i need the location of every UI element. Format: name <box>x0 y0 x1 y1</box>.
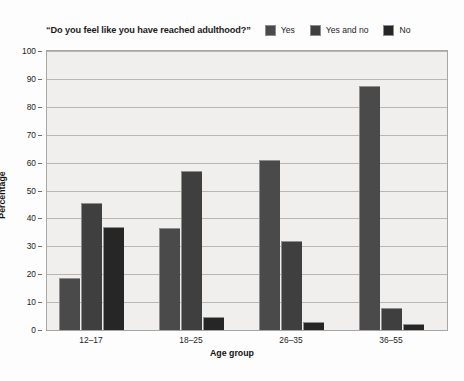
bar-group <box>47 51 147 330</box>
y-tick-mark <box>38 246 42 247</box>
bar-no[interactable] <box>203 317 224 330</box>
bar-group <box>147 51 247 330</box>
y-tick-label: 60 <box>27 158 36 168</box>
chart-legend: YesYes and noNo <box>265 25 426 36</box>
bar-yes[interactable] <box>359 86 380 330</box>
legend-swatch-icon <box>383 25 394 36</box>
legend-item-yes-and-no[interactable]: Yes and no <box>310 25 369 36</box>
bar-no[interactable] <box>103 227 124 330</box>
legend-swatch-icon <box>310 25 321 36</box>
y-tick-label: 0 <box>31 325 36 335</box>
x-tick-label: 26–35 <box>279 335 302 345</box>
y-tick-label: 100 <box>22 46 36 56</box>
legend-label: No <box>399 25 410 35</box>
y-tick-label: 50 <box>27 186 36 196</box>
y-tick-mark <box>38 191 42 192</box>
bar-group <box>247 51 347 330</box>
bar-group <box>347 51 447 330</box>
bar-yes[interactable] <box>59 278 80 330</box>
y-tick-mark <box>38 274 42 275</box>
legend-item-no[interactable]: No <box>383 25 410 36</box>
bar-no[interactable] <box>403 324 424 330</box>
y-axis-title: Percentage <box>0 171 7 218</box>
y-tick-mark <box>38 107 42 108</box>
bar-chart: “Do you feel like you have reached adult… <box>0 0 464 381</box>
y-tick-mark <box>38 51 42 52</box>
bar-yes-and-no[interactable] <box>281 241 302 330</box>
y-tick-mark <box>38 79 42 80</box>
y-tick-label: 10 <box>27 297 36 307</box>
y-tick-label: 30 <box>27 241 36 251</box>
legend-label: Yes and no <box>326 25 369 35</box>
bar-yes-and-no[interactable] <box>381 308 402 330</box>
y-tick-label: 90 <box>27 74 36 84</box>
legend-label: Yes <box>281 25 295 35</box>
y-tick-mark <box>38 135 42 136</box>
y-tick-label: 70 <box>27 130 36 140</box>
x-tick-label: 18–25 <box>179 335 202 345</box>
x-tick-label: 12–17 <box>79 335 102 345</box>
chart-title: “Do you feel like you have reached adult… <box>46 25 251 35</box>
bars-layer <box>47 51 447 330</box>
y-tick-label: 20 <box>27 269 36 279</box>
y-tick-label: 80 <box>27 102 36 112</box>
x-axis: 12–1718–2526–3536–55 <box>47 333 447 349</box>
legend-swatch-icon <box>265 25 276 36</box>
bar-yes-and-no[interactable] <box>81 203 102 330</box>
y-tick-mark <box>38 218 42 219</box>
bar-yes[interactable] <box>159 228 180 330</box>
chart-header: “Do you feel like you have reached adult… <box>0 20 464 40</box>
bar-no[interactable] <box>303 322 324 330</box>
y-tick-label: 40 <box>27 213 36 223</box>
x-axis-title: Age group <box>0 348 464 358</box>
x-tick-label: 36–55 <box>379 335 402 345</box>
bar-yes[interactable] <box>259 160 280 330</box>
y-tick-mark <box>38 302 42 303</box>
bar-yes-and-no[interactable] <box>181 171 202 330</box>
y-tick-mark <box>38 330 42 331</box>
y-tick-mark <box>38 163 42 164</box>
legend-item-yes[interactable]: Yes <box>265 25 295 36</box>
